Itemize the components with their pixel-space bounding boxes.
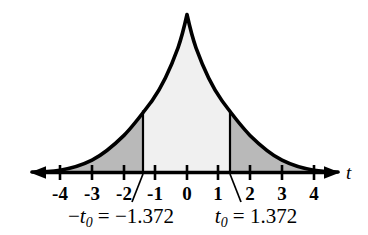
leader-line-positive-t0 [230,174,241,202]
axis-tick-label-neg4: -4 [52,184,68,203]
axis-tick-label-neg1: -1 [147,184,163,203]
axis-tick-label-pos2: 2 [245,184,255,203]
callout-positive-t0-value: 1.372 [250,204,297,228]
axis-tick-label-pos4: 4 [309,184,319,203]
axis-tick-label-neg2: -2 [116,184,132,203]
callout-positive-t0-subscript: 0 [221,215,228,230]
density-fill-group [32,15,338,173]
callout-positive-t0: t0 = 1.372 [215,206,297,230]
leader-line-negative-t0 [132,174,143,202]
callout-negative-t0-equals: = [98,204,110,228]
axis-tick-label-pos1: 1 [213,184,223,203]
callout-negative-t0-minus: − [68,204,80,228]
t-distribution-figure: -4 -3 -2 -1 0 1 2 3 4 t −t0 = −1.372 t0 … [0,0,368,235]
axis-tick-label-neg3: -3 [84,184,100,203]
axis-tick-label-pos3: 3 [277,184,287,203]
axis-tick-label-zero: 0 [182,184,192,203]
callout-negative-t0: −t0 = −1.372 [68,206,174,230]
axis-label-t: t [346,163,351,182]
center-shaded-region [32,15,338,173]
callout-positive-t0-equals: = [233,204,245,228]
callout-negative-t0-subscript: 0 [86,215,93,230]
callout-negative-t0-value: −1.372 [115,204,174,228]
